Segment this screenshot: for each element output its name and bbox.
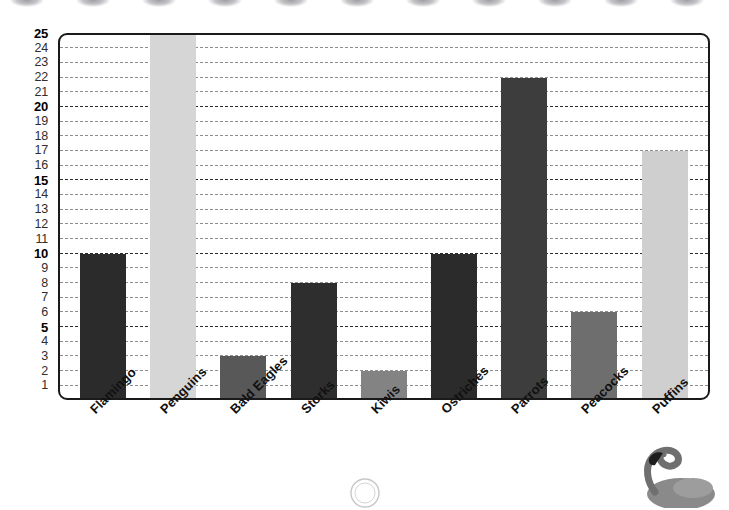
y-axis-tick-10: 10 bbox=[34, 247, 48, 260]
y-axis-tick-12: 12 bbox=[34, 218, 48, 231]
y-axis: 2524232221201918171615141312111098765432… bbox=[0, 0, 54, 440]
y-axis-tick-15: 15 bbox=[34, 173, 48, 186]
plot-area bbox=[58, 33, 710, 400]
y-axis-tick-9: 9 bbox=[41, 262, 48, 275]
y-axis-tick-21: 21 bbox=[34, 85, 48, 98]
y-axis-tick-23: 23 bbox=[34, 56, 48, 69]
y-axis-tick-7: 7 bbox=[41, 291, 48, 304]
y-axis-tick-1: 1 bbox=[41, 379, 48, 392]
y-axis-tick-4: 4 bbox=[41, 335, 48, 348]
x-axis: FlamingoPenguinsBald EaglesStorksKiwisOs… bbox=[58, 402, 710, 502]
y-axis-tick-6: 6 bbox=[41, 306, 48, 319]
y-axis-tick-3: 3 bbox=[41, 350, 48, 363]
y-axis-tick-19: 19 bbox=[34, 115, 48, 128]
y-axis-tick-24: 24 bbox=[34, 41, 48, 54]
y-axis-tick-13: 13 bbox=[34, 203, 48, 216]
y-axis-tick-14: 14 bbox=[34, 188, 48, 201]
y-axis-tick-17: 17 bbox=[34, 144, 48, 157]
y-axis-tick-2: 2 bbox=[41, 364, 48, 377]
y-axis-tick-16: 16 bbox=[34, 159, 48, 172]
bar-series bbox=[60, 35, 708, 398]
bar-parrots[interactable] bbox=[501, 78, 547, 398]
y-axis-tick-25: 25 bbox=[34, 27, 48, 40]
y-axis-tick-8: 8 bbox=[41, 276, 48, 289]
bar-puffins[interactable] bbox=[642, 151, 688, 398]
y-axis-tick-18: 18 bbox=[34, 130, 48, 143]
y-axis-tick-22: 22 bbox=[34, 71, 48, 84]
y-axis-tick-5: 5 bbox=[41, 320, 48, 333]
bar-penguins[interactable] bbox=[150, 34, 196, 399]
y-axis-tick-11: 11 bbox=[35, 232, 48, 245]
y-axis-tick-20: 20 bbox=[34, 100, 48, 113]
